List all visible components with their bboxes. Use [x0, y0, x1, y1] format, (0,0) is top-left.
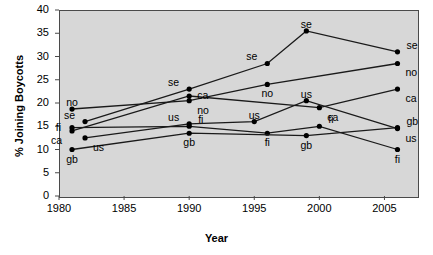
point-label-no: no: [52, 97, 92, 108]
x-tick-label: 1980: [39, 203, 79, 214]
point-label-ca: ca: [197, 90, 208, 101]
x-tick-label: 1985: [104, 203, 144, 214]
point-label-us: us: [139, 112, 179, 123]
point-label-us: us: [405, 133, 416, 144]
x-tick-label: 2005: [364, 203, 404, 214]
point-label-gb: gb: [169, 137, 209, 148]
y-tick-label: 40: [21, 4, 49, 15]
plot-area: [59, 10, 419, 198]
point-label-us: us: [234, 110, 274, 121]
point-label-se: se: [139, 77, 179, 88]
point-label-no: no: [247, 88, 287, 99]
point-label-fi: fi: [328, 114, 333, 125]
y-tick-label: 25: [21, 74, 49, 85]
point-label-se: se: [35, 110, 75, 121]
point-label-se: se: [406, 40, 417, 51]
x-axis-label: Year: [0, 232, 433, 244]
point-label-se: se: [286, 19, 326, 30]
chart-figure: 0510152025303540198019851990199520002005…: [0, 0, 433, 255]
point-label-fi: fi: [247, 137, 287, 148]
point-label-se: se: [217, 51, 257, 62]
point-label-ca: ca: [405, 93, 416, 104]
point-label-fi: fi: [21, 122, 61, 133]
point-label-fi: fi: [198, 114, 203, 125]
point-label-gb: gb: [286, 140, 326, 151]
point-label-no: no: [405, 67, 417, 78]
y-tick-label: 5: [21, 167, 49, 178]
x-tick-label: 2000: [299, 203, 339, 214]
point-label-fi: fi: [377, 154, 417, 165]
y-tick-label: 35: [21, 27, 49, 38]
y-tick-label: 30: [21, 51, 49, 62]
point-label-gb: gb: [406, 116, 418, 127]
y-tick-label: 0: [21, 190, 49, 201]
point-label-ca: ca: [22, 135, 62, 146]
point-label-us: us: [286, 89, 326, 100]
x-tick-label: 1990: [169, 203, 209, 214]
y-tick-label: 20: [21, 97, 49, 108]
y-axis-label: % Joining Boycotts: [13, 41, 25, 171]
x-tick-label: 1995: [234, 203, 274, 214]
point-label-us: us: [93, 142, 104, 153]
point-label-gb: gb: [52, 154, 92, 165]
